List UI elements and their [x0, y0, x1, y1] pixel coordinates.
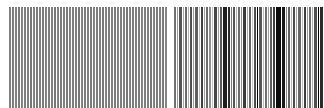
barcode-bar: [291, 7, 292, 108]
barcode-bar: [117, 7, 119, 108]
barcode-bar: [209, 7, 211, 108]
barcode-bar: [195, 7, 198, 108]
barcode-bar: [282, 7, 285, 108]
barcode-bar: [296, 7, 297, 108]
barcode-bar: [298, 7, 301, 108]
barcode-bar: [214, 7, 217, 108]
barcode-svg: [0, 0, 324, 108]
barcode-bar: [276, 7, 281, 108]
barcode-bar: [12, 7, 14, 108]
barcode-bar: [15, 7, 17, 108]
barcode-bar: [147, 7, 149, 108]
barcode-bar: [236, 7, 237, 108]
barcode-bar: [318, 7, 319, 108]
barcode-bar: [126, 7, 128, 108]
barcode-bar: [42, 7, 44, 108]
barcode-bar: [218, 7, 219, 108]
barcode-bar: [190, 7, 192, 108]
barcode-bar: [45, 7, 47, 108]
barcode-bar: [307, 7, 308, 108]
barcode-bar: [72, 7, 74, 108]
barcode-bar: [84, 7, 86, 108]
barcode-bar: [177, 7, 178, 108]
barcode-bar: [75, 7, 77, 108]
barcode-bar: [30, 7, 32, 108]
barcode-bar: [129, 7, 131, 108]
barcode-bar: [159, 7, 161, 108]
barcode-bar: [90, 7, 92, 108]
barcode-bar: [156, 7, 158, 108]
barcode-bar: [24, 7, 26, 108]
barcode-bar: [111, 7, 113, 108]
barcode-bar: [265, 7, 267, 108]
barcode-bar: [304, 7, 306, 108]
barcode-bar: [220, 7, 222, 108]
barcode-bar: [162, 7, 164, 108]
barcode-bar: [66, 7, 68, 108]
barcode-bar: [312, 7, 313, 108]
barcode-bar: [273, 7, 275, 108]
barcode-bar: [288, 7, 290, 108]
barcode-bar: [27, 7, 29, 108]
barcode-bar: [105, 7, 107, 108]
barcode-bar: [223, 7, 227, 108]
barcode-bar: [39, 7, 41, 108]
barcode-bar: [193, 7, 194, 108]
barcode-bar: [165, 7, 167, 108]
barcode-bar: [241, 7, 242, 108]
barcode-bar: [286, 7, 287, 108]
barcode-bar: [199, 7, 200, 108]
barcode-bar: [135, 7, 137, 108]
barcode-bar: [188, 7, 189, 108]
barcode-bar: [132, 7, 134, 108]
barcode-bar: [268, 7, 269, 108]
barcode-bar: [81, 7, 83, 108]
barcode-bar: [69, 7, 71, 108]
barcode-bar: [247, 7, 248, 108]
barcode-bar: [174, 7, 176, 108]
barcode-bar: [259, 7, 262, 108]
barcode-bar: [302, 7, 303, 108]
barcode-bar: [54, 7, 56, 108]
barcode-bar: [314, 7, 317, 108]
barcode-bar: [123, 7, 125, 108]
barcode-bar: [238, 7, 240, 108]
barcode-bar: [212, 7, 213, 108]
barcode-bar: [48, 7, 50, 108]
barcode-bar: [21, 7, 23, 108]
barcode-bar: [257, 7, 258, 108]
barcode-bar: [293, 7, 295, 108]
barcode-bar: [138, 7, 140, 108]
barcode-bar: [150, 7, 152, 108]
barcode-bar: [243, 7, 246, 108]
barcode-bar: [320, 7, 323, 108]
barcode-bar: [141, 7, 143, 108]
barcode-bar: [51, 7, 53, 108]
barcode-bar: [270, 7, 272, 108]
barcode-bar: [93, 7, 95, 108]
barcode-bar: [201, 7, 203, 108]
barcode-bar: [309, 7, 311, 108]
barcode-bar: [206, 7, 208, 108]
barcode-bar: [233, 7, 235, 108]
barcode-bar: [228, 7, 230, 108]
barcode-bar: [249, 7, 251, 108]
barcode-figure: [0, 0, 324, 108]
barcode-bar: [87, 7, 89, 108]
barcode-bar: [96, 7, 98, 108]
barcode-bar: [144, 7, 146, 108]
barcode-bar: [120, 7, 122, 108]
barcode-bar: [179, 7, 182, 108]
barcode-bar: [18, 7, 20, 108]
barcode-bar: [108, 7, 110, 108]
barcode-bar: [36, 7, 38, 108]
barcode-bar: [9, 7, 11, 108]
barcode-bar: [254, 7, 256, 108]
barcode-bar: [252, 7, 253, 108]
barcode-bar: [60, 7, 62, 108]
barcode-bar: [263, 7, 264, 108]
barcode-bar: [153, 7, 155, 108]
barcode-bar: [114, 7, 116, 108]
barcode-bar: [183, 7, 184, 108]
screenshot-canvas: [0, 0, 324, 108]
